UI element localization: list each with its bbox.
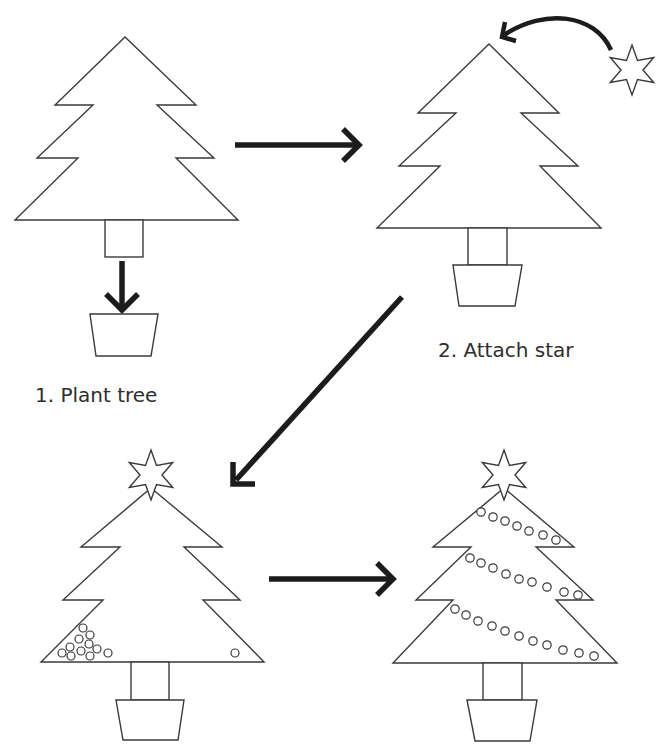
bead-icon [501, 517, 509, 525]
arrow-diagonal-down-left-icon [233, 297, 402, 484]
bead-icon [477, 559, 485, 567]
bead-icon [525, 527, 533, 535]
ornament-icon [79, 624, 87, 632]
ornament-icon [75, 635, 83, 643]
arrow-right-icon [235, 129, 359, 161]
bead-icon [529, 637, 537, 645]
pot-icon [90, 314, 158, 356]
trunk-icon [105, 220, 143, 257]
ornament-icon [86, 631, 94, 639]
bead-icon [489, 564, 497, 572]
bead-icon [462, 611, 470, 619]
trunk-icon [468, 228, 507, 265]
bead-icon [590, 652, 598, 660]
curved-arrow-icon [502, 18, 611, 50]
ornament-icon [104, 649, 112, 657]
pot-icon [453, 265, 522, 306]
trunk-icon [483, 663, 522, 700]
tree-icon [15, 37, 238, 220]
bead-icon [552, 536, 560, 544]
star-icon [610, 45, 653, 95]
ornament-icon [231, 649, 239, 657]
star-icon [129, 450, 172, 500]
trunk-icon [131, 662, 169, 700]
tree-icon [377, 44, 601, 228]
step-2-label: 2. Attach star [438, 340, 573, 360]
bead-icon [543, 641, 551, 649]
bead-icon [515, 575, 523, 583]
bead-icon [488, 622, 496, 630]
bead-icon [451, 605, 459, 613]
diagram-canvas [0, 0, 672, 752]
ornament-icon [58, 649, 66, 657]
step-2-group [377, 18, 654, 306]
bead-icon [559, 646, 567, 654]
pot-icon [467, 700, 537, 741]
bead-icon [466, 554, 474, 562]
bead-icon [574, 591, 582, 599]
bead-icon [474, 617, 482, 625]
arrow-right-icon [269, 563, 393, 595]
bead-icon [515, 632, 523, 640]
ornament-icon [66, 643, 74, 651]
step-1-group [15, 37, 238, 356]
bead-icon [477, 508, 485, 516]
step-4-group [393, 450, 617, 741]
bead-icon [528, 578, 536, 586]
step-3-group [41, 450, 264, 740]
ornament-icon [93, 645, 101, 653]
pot-icon [116, 700, 184, 740]
step-1-label: 1. Plant tree [35, 385, 157, 405]
ornament-icon [77, 647, 85, 655]
star-icon [482, 450, 525, 500]
ornament-icon [67, 652, 75, 660]
bead-icon [560, 588, 568, 596]
bead-icon [501, 627, 509, 635]
bead-icon [489, 513, 497, 521]
bead-icon [575, 649, 583, 657]
bead-icon [502, 570, 510, 578]
bead-icon [539, 531, 547, 539]
christmas-tree-process-diagram: 1. Plant tree 2. Attach star [0, 0, 672, 752]
tree-icon [41, 488, 264, 662]
bead-icon [513, 522, 521, 530]
bead-icon [543, 583, 551, 591]
ornament-icon [86, 652, 94, 660]
ornament-icon [85, 640, 93, 648]
arrow-down-icon [106, 261, 138, 310]
